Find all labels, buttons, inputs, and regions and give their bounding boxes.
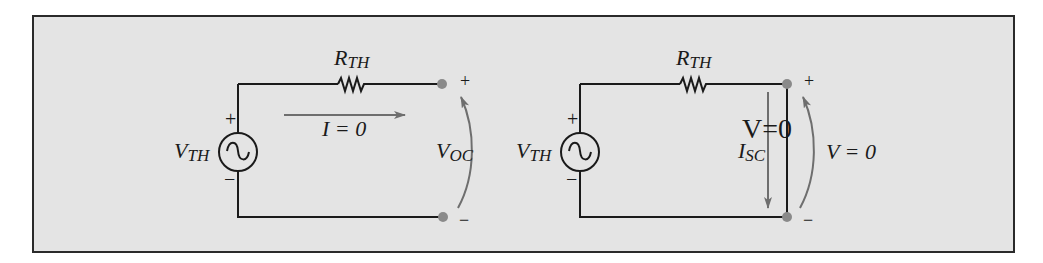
- voltage-label: V = 0: [826, 139, 876, 164]
- terminal-minus-sign: −: [803, 210, 813, 230]
- current-label: I = 0: [321, 116, 366, 141]
- terminal-plus-sign: +: [804, 71, 814, 91]
- source-minus-sign: −: [224, 168, 235, 190]
- terminal-plus: [782, 79, 792, 89]
- source-minus-sign: −: [566, 168, 577, 190]
- thevenin-diagram: + − VTH RTH I = 0 VOC + − + − VTH RTH V=…: [0, 0, 1043, 263]
- terminal-minus-sign: −: [459, 210, 469, 230]
- terminal-minus: [438, 212, 448, 222]
- terminal-plus: [437, 79, 447, 89]
- source-plus-sign: +: [225, 108, 236, 130]
- source-plus-sign: +: [567, 108, 578, 130]
- terminal-plus-sign: +: [460, 71, 470, 91]
- terminal-minus: [782, 212, 792, 222]
- short-voltage-label: V=0: [742, 113, 792, 144]
- figure-frame: [33, 16, 1014, 252]
